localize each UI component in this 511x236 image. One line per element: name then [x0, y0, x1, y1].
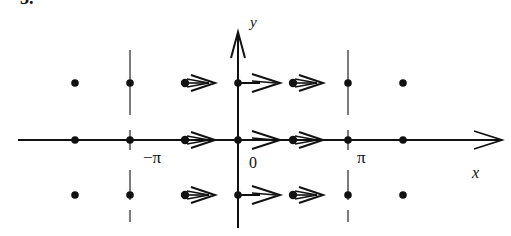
y-axis-label: y — [248, 14, 257, 30]
tick-label-zero: 0 — [249, 154, 257, 171]
point-dot — [71, 136, 79, 144]
point-dot — [399, 136, 407, 144]
point-dot — [344, 191, 352, 199]
phase-portrait-diagram: 3. y x −π 0 π — [0, 0, 511, 236]
point-dot — [126, 136, 134, 144]
point-dot — [344, 136, 352, 144]
x-axis-label: x — [471, 164, 479, 181]
arrow-right-icon — [181, 187, 215, 203]
tick-label-pi: π — [357, 148, 366, 167]
arrow-right-icon — [181, 75, 215, 91]
point-dot — [126, 191, 134, 199]
arrow-right-icon — [234, 186, 280, 204]
point-dot — [71, 191, 79, 199]
arrow-right-icon — [289, 75, 323, 91]
point-dot — [399, 191, 407, 199]
tick-label-neg-pi: −π — [143, 148, 162, 167]
arrow-right-icon — [289, 187, 323, 203]
point-dot — [126, 79, 134, 87]
point-dot — [71, 79, 79, 87]
point-dot — [344, 79, 352, 87]
arrow-right-icon — [234, 74, 280, 92]
arrow-right-icon — [234, 131, 280, 149]
point-dot — [399, 79, 407, 87]
figure-number-label: 3. — [20, 0, 34, 8]
